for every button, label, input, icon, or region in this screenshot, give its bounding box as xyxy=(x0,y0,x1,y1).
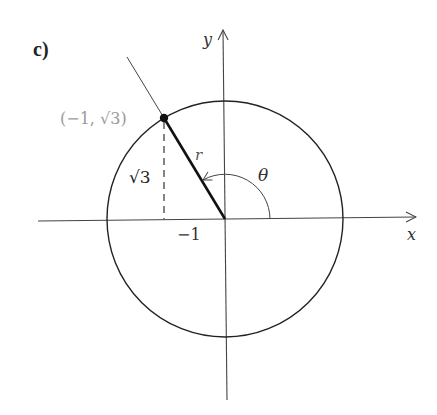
x-axis-label: x xyxy=(407,225,416,244)
y-axis-label: y xyxy=(202,30,213,49)
terminal-ray xyxy=(127,57,164,118)
theta-label: θ xyxy=(258,165,268,185)
polar-coordinate-diagram: c) y x (−1, √3) r θ √3 −1 xyxy=(0,0,437,415)
radius-label: r xyxy=(195,146,203,164)
point-marker xyxy=(160,114,168,122)
tick-label-neg-one: −1 xyxy=(177,225,201,244)
part-label: c) xyxy=(33,38,49,61)
x-axis xyxy=(38,217,416,221)
point-coordinate-label: (−1, √3) xyxy=(60,109,127,128)
height-label: √3 xyxy=(129,167,151,187)
radius-segment xyxy=(164,118,225,219)
